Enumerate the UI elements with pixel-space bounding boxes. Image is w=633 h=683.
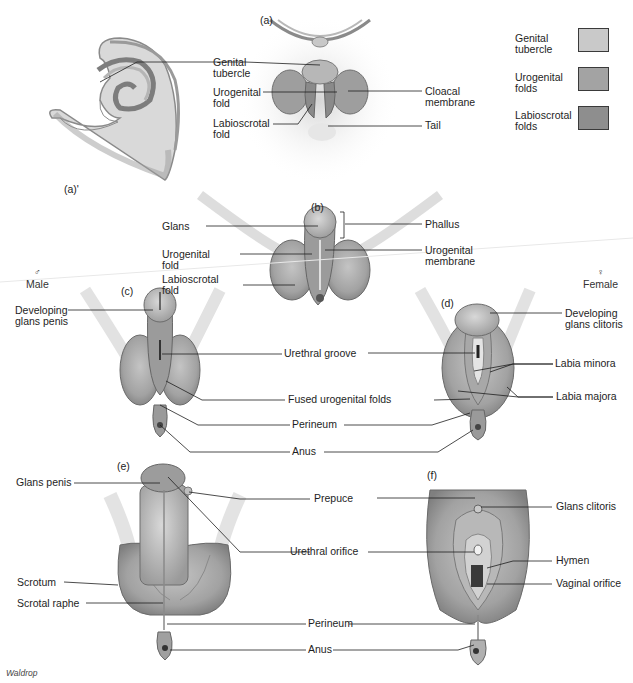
label-glans-penis: Glans penis [16,477,71,488]
female-symbol-icon: ♀ [583,266,618,278]
sagittal-section-drawing [50,38,179,180]
label-urethral-groove: Urethral groove [284,348,356,359]
female-label: ♀ Female [583,266,618,290]
legend-swatch-genital-tubercle [578,28,609,52]
female-text: Female [583,278,618,290]
label-urogenital-membrane: Urogenital membrane [425,245,475,267]
label-scrotal-raphe: Scrotal raphe [17,598,79,609]
illustrator-credit: Waldrop [6,668,38,678]
label-vaginal-orifice: Vaginal orifice [556,578,621,589]
label-developing-glans-penis: Developing glans penis [15,305,68,327]
label-anus-ef: Anus [308,644,332,655]
label-phallus: Phallus [425,219,459,230]
label-scrotum: Scrotum [17,577,56,588]
panel-label-b: (b) [311,201,324,213]
label-prepuce: Prepuce [314,493,353,504]
stage-d-female-drawing [420,290,530,440]
panel-label-a: (a) [260,14,273,26]
label-glans-clitoris: Glans clitoris [556,501,616,512]
label-labia-minora: Labia minora [555,358,616,369]
panel-label-c: (c) [121,285,133,297]
panel-label-f: (f) [427,469,437,481]
legend-label-urogenital-folds: Urogenital folds [515,72,563,94]
male-symbol-icon: ♂ [26,266,49,278]
label-labia-majora: Labia majora [556,391,617,402]
label-fused-urogenital-folds: Fused urogenital folds [288,394,391,405]
label-urogenital-fold-b: Urogenital fold [162,249,210,271]
label-hymen: Hymen [556,555,589,566]
legend-swatch-urogenital-folds [578,67,609,91]
label-labioscrotal-fold-b: Labioscrotal fold [162,274,219,296]
legend-label-genital-tubercle: Genital tubercle [515,33,552,55]
label-glans: Glans [162,221,189,232]
label-labioscrotal-fold-a: Labioscrotal fold [213,118,270,140]
indifferent-stage-drawing [238,15,398,185]
stage-f-female-drawing [427,490,530,665]
label-cloacal-membrane: Cloacal membrane [425,86,475,108]
stage-e-male-drawing [110,464,240,660]
label-perineum-ef: Perineum [308,618,353,629]
male-label: ♂ Male [26,266,49,290]
panel-label-a-prime: (a)' [64,183,79,195]
panel-label-e: (e) [117,460,130,472]
anatomy-illustration [0,0,633,683]
legend-swatch-labioscrotal-folds [578,106,609,130]
label-genital-tubercle: Genital tubercle [213,57,250,79]
label-perineum-cd: Perineum [292,419,337,430]
male-text: Male [26,278,49,290]
panel-label-d: (d) [441,297,454,309]
label-anus-cd: Anus [292,446,316,457]
label-urethral-orifice: Urethral orifice [290,546,358,557]
label-developing-glans-clitoris: Developing glans clitoris [565,308,623,330]
label-tail: Tail [425,120,441,131]
label-urogenital-fold-a: Urogenital fold [213,87,261,109]
legend-label-labioscrotal-folds: Labioscrotal folds [515,110,572,132]
